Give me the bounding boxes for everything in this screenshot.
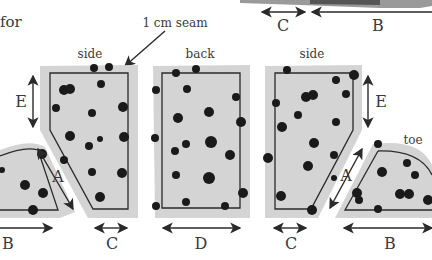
dimension-e-right: E (375, 92, 387, 111)
back-piece (151, 65, 250, 218)
dimension-e-left: E (15, 92, 27, 111)
seam-pointer-arrow (125, 31, 165, 66)
dimension-c-top: C (277, 16, 289, 35)
dimension-c-left: C (106, 234, 118, 253)
dimension-c-right: C (285, 234, 297, 253)
shoe-photo-fragment (240, 0, 432, 8)
piece-label-back: back (186, 47, 216, 61)
seam-label: 1 cm seam (142, 16, 208, 30)
dimension-a-left: A (51, 167, 64, 186)
dimension-b-right: B (384, 234, 396, 253)
dimension-b-left: B (2, 234, 14, 253)
dimension-d: D (195, 234, 208, 253)
piece-label-side-right: side (300, 47, 325, 61)
caption-fragment: for (0, 13, 23, 31)
piece-label-side-left: side (78, 47, 103, 61)
dimension-b-top: B (372, 16, 384, 35)
slipper-pattern-diagram: C B for 1 cm seam side back side toe (0, 0, 432, 260)
dimension-a-right: A (339, 166, 352, 185)
